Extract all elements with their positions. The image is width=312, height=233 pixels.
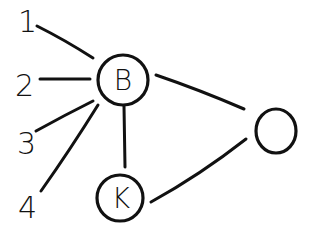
edge-k-o — [151, 139, 246, 202]
node-k-label: K — [112, 182, 131, 215]
node-b: B — [98, 55, 148, 105]
node-k: K — [97, 175, 143, 221]
node-label-3: 3 — [17, 126, 36, 161]
edge-b-o — [156, 75, 244, 109]
node-o — [256, 109, 296, 153]
node-label-2: 2 — [15, 68, 34, 103]
graph-diagram: 1 2 3 4 B K — [0, 0, 312, 233]
node-label-4: 4 — [18, 190, 37, 225]
node-b-label: B — [114, 64, 132, 97]
edge-1-b — [37, 26, 93, 58]
node-label-1: 1 — [18, 4, 37, 39]
node-o-circle — [256, 109, 296, 153]
edge-b-k — [124, 106, 125, 167]
edge-4-b — [41, 105, 98, 191]
